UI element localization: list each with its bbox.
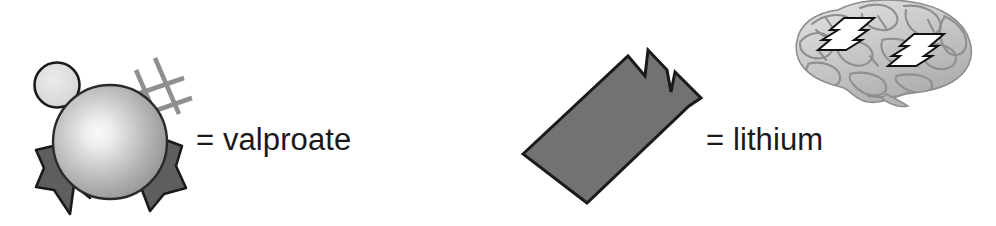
- valproate-symbol-svg: [18, 48, 193, 213]
- figure-canvas: = valproate = lithium: [0, 0, 996, 226]
- lithium-symbol: [515, 48, 715, 213]
- valproate-legend-label: = valproate: [196, 124, 351, 155]
- valproate-symbol: [18, 48, 193, 213]
- lithium-legend-label: = lithium: [706, 124, 823, 155]
- brain-with-lightning-bolts-illustration: [782, 0, 982, 110]
- jagged-slab-shape: [523, 50, 701, 203]
- brain-illustration-svg: [782, 0, 982, 110]
- main-sphere-shape: [53, 85, 167, 199]
- lithium-symbol-svg: [515, 48, 715, 213]
